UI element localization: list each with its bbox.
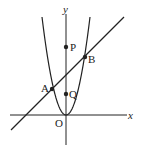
point-q-label: Q	[69, 88, 77, 100]
point-a	[50, 87, 54, 91]
point-a-label: A	[41, 82, 49, 94]
point-q	[64, 92, 68, 96]
diagram-canvas: y x O A B P Q	[0, 0, 146, 149]
point-p	[64, 45, 68, 49]
point-b-label: B	[88, 53, 95, 65]
line-ab	[11, 17, 124, 130]
x-axis-label: x	[127, 109, 133, 121]
point-p-label: P	[70, 41, 76, 53]
origin-label: O	[55, 117, 63, 129]
coordinate-diagram: y x O A B P Q	[0, 0, 146, 149]
point-b	[83, 55, 87, 59]
y-axis-label: y	[62, 3, 68, 15]
